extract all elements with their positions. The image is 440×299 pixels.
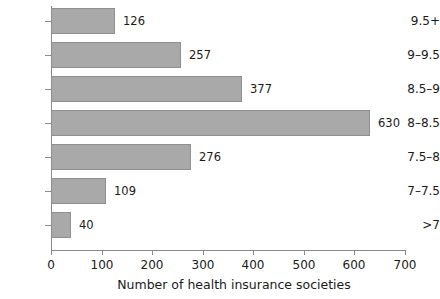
category-label: >7 xyxy=(396,218,440,232)
x-axis-tick-label: 700 xyxy=(385,257,425,273)
category-label: 9–9.5 xyxy=(396,48,440,62)
x-axis-tick xyxy=(152,250,153,255)
category-label: 8–8.5 xyxy=(396,116,440,130)
bar-row: 109 xyxy=(51,178,405,204)
category-tick xyxy=(45,191,51,192)
x-axis-tick-label: 500 xyxy=(284,257,324,273)
category-tick xyxy=(45,89,51,90)
x-axis-tick xyxy=(102,250,103,255)
x-axis-tick xyxy=(304,250,305,255)
category-label: 7.5–8 xyxy=(396,150,440,164)
bar-value-label: 126 xyxy=(123,12,145,30)
x-axis-title-text: Number of health insurance societies xyxy=(117,277,351,293)
x-axis-tick xyxy=(51,250,52,255)
category-tick xyxy=(45,21,51,22)
bar-row: 377 xyxy=(51,76,405,102)
x-axis-tick-label: 600 xyxy=(334,257,374,273)
x-axis-line xyxy=(51,250,405,251)
x-axis-tick xyxy=(253,250,254,255)
bar xyxy=(51,212,71,238)
bar-row: 126 xyxy=(51,8,405,34)
x-axis-tick xyxy=(405,250,406,255)
x-axis-tick xyxy=(354,250,355,255)
bar xyxy=(51,144,191,170)
x-axis-tick-label: 300 xyxy=(183,257,223,273)
x-axis-title: Number of health insurance societies xyxy=(0,277,440,293)
bar-value-label: 109 xyxy=(114,182,136,200)
bar-row: 257 xyxy=(51,42,405,68)
bar-row: 630 xyxy=(51,110,405,136)
x-axis-tick-label: 400 xyxy=(233,257,273,273)
category-tick xyxy=(45,123,51,124)
x-axis-tick-label: 200 xyxy=(132,257,172,273)
category-tick xyxy=(45,225,51,226)
bar xyxy=(51,8,115,34)
bar-chart: 12625737763027610940 9.5+9–9.58.5–98–8.5… xyxy=(0,0,440,299)
category-label: 9.5+ xyxy=(396,14,440,28)
bar xyxy=(51,42,181,68)
bar-row: 40 xyxy=(51,212,405,238)
bar xyxy=(51,178,106,204)
bar-value-label: 40 xyxy=(79,216,94,234)
bar-row: 276 xyxy=(51,144,405,170)
bar-value-label: 276 xyxy=(199,148,221,166)
bar-value-label: 257 xyxy=(189,46,211,64)
x-axis-tick xyxy=(203,250,204,255)
category-label: 8.5–9 xyxy=(396,82,440,96)
bar xyxy=(51,110,370,136)
plot-area: 12625737763027610940 9.5+9–9.58.5–98–8.5… xyxy=(0,0,440,299)
x-axis-tick-label: 100 xyxy=(82,257,122,273)
category-tick xyxy=(45,157,51,158)
category-label: 7–7.5 xyxy=(396,184,440,198)
category-tick xyxy=(45,55,51,56)
x-axis-tick-label: 0 xyxy=(31,257,71,273)
bar-value-label: 377 xyxy=(250,80,272,98)
bar xyxy=(51,76,242,102)
